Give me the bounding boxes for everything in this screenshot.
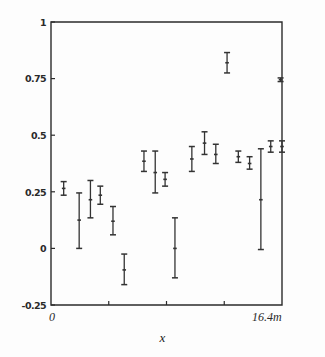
data-point-10 (189, 147, 195, 172)
chart-figure: 1 0.75 0.5 0.25 0 -0.25 0 16.4m x (0, 0, 325, 357)
data-point-17 (268, 141, 274, 152)
data-point-3 (97, 186, 103, 204)
data-point-14 (235, 151, 241, 162)
data-point-19 (279, 141, 285, 152)
y-tick-label-025: 0.25 (8, 187, 46, 198)
y-tick-label-0: 0 (26, 243, 46, 254)
axis-frame (51, 22, 282, 305)
data-point-11 (202, 132, 208, 155)
data-point-15 (247, 157, 253, 169)
y-tick-label-075: 0.75 (8, 73, 46, 84)
data-point-0 (61, 182, 67, 196)
y-tick-label-05: 0.5 (14, 130, 46, 141)
x-tick-label-left: 0 (45, 310, 59, 325)
data-point-1 (76, 193, 82, 248)
data-point-16 (258, 149, 264, 250)
y-tick-label-neg025: -0.25 (1, 300, 46, 311)
x-axis-title: x (0, 330, 325, 346)
data-point-5 (121, 254, 127, 285)
error-bar-series (61, 53, 285, 285)
data-point-7 (152, 151, 158, 193)
plot-area (0, 0, 325, 357)
data-point-2 (87, 180, 93, 217)
data-point-8 (162, 173, 168, 187)
data-point-4 (110, 207, 116, 235)
x-tick-label-right: 16.4m (252, 310, 312, 325)
data-point-6 (141, 151, 147, 171)
data-point-13 (224, 53, 230, 73)
y-tick-label-1: 1 (24, 17, 46, 28)
data-point-9 (172, 218, 178, 278)
data-point-12 (213, 144, 219, 163)
